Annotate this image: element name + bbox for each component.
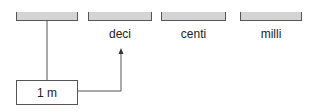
arrow-up-icon bbox=[119, 48, 124, 54]
value-box-label: 1 m bbox=[37, 86, 57, 100]
value-box: 1 m bbox=[16, 80, 78, 105]
